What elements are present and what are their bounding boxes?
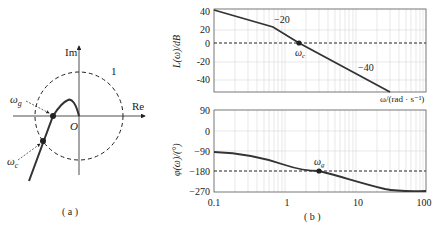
omega-c-point — [40, 138, 46, 144]
nyquist-curve — [29, 100, 79, 181]
slope-40-label: −40 — [358, 62, 374, 73]
omega-g-label: ωg — [10, 93, 22, 108]
magnitude-yticks: 40 20 0 -20 -40 — [197, 6, 210, 85]
omega-g-marker — [316, 168, 321, 173]
svg-text:−90: −90 — [194, 146, 210, 157]
figure-canvas: Im Re O 1 ωg ωc ( a ) −20 −40 ωc ω/(rad … — [0, 0, 442, 229]
omega-c-marker — [296, 40, 301, 45]
svg-text:0.1: 0.1 — [208, 197, 221, 208]
svg-text:−270: −270 — [189, 186, 210, 197]
omega-c-bode-label: ωc — [295, 47, 306, 60]
svg-text:0: 0 — [205, 126, 210, 137]
magnitude-frame — [214, 9, 426, 92]
svg-text:20: 20 — [200, 24, 210, 35]
svg-text:1: 1 — [285, 197, 290, 208]
unit-circle-label: 1 — [111, 65, 117, 77]
bode-magnitude-plot: −20 −40 ωc ω/(rad · s⁻¹) 40 20 0 -20 -40… — [171, 6, 426, 104]
omega-g-pointer — [26, 101, 49, 113]
im-label: Im — [65, 46, 78, 58]
omega-g-bode-label: ωg — [314, 156, 325, 169]
origin-label: O — [70, 120, 78, 132]
slope-20-label: −20 — [274, 14, 290, 25]
phase-yticks: 90 0 −90 −180 −270 — [189, 105, 210, 197]
svg-text:10: 10 — [353, 197, 363, 208]
magnitude-ylabel: L(ω)/dB — [171, 35, 183, 69]
phase-ylabel: φ(ω)/(°) — [171, 143, 183, 176]
caption-b: ( b ) — [304, 211, 321, 223]
svg-text:40: 40 — [200, 6, 210, 17]
svg-text:−180: −180 — [189, 166, 210, 177]
omega-g-point — [50, 113, 56, 119]
re-label: Re — [132, 100, 144, 112]
svg-text:90: 90 — [200, 105, 210, 116]
frequency-xticks: 0.1 1 10 100 — [208, 197, 432, 208]
caption-a: ( a ) — [62, 206, 78, 218]
bode-phase-plot: ωg 90 0 −90 −180 −270 φ(ω)/(°) 0.1 1 10 … — [171, 105, 432, 223]
svg-text:0: 0 — [205, 38, 210, 49]
omega-c-label: ωc — [7, 155, 19, 170]
svg-text:-20: -20 — [197, 56, 210, 67]
nyquist-plot: Im Re O 1 ωg ωc ( a ) — [7, 46, 145, 218]
omega-axis-label: ω/(rad · s⁻¹) — [380, 94, 424, 104]
svg-text:-40: -40 — [197, 74, 210, 85]
svg-text:100: 100 — [417, 197, 432, 208]
